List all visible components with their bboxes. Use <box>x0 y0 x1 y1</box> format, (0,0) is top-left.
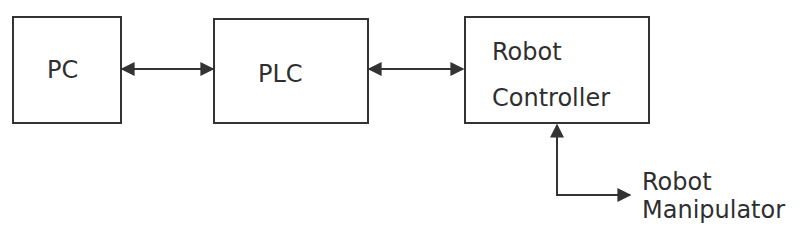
robot-controller-box: Robot Controller <box>464 16 650 124</box>
robot-controller-label-line2: Controller <box>492 84 610 112</box>
plc-box: PLC <box>213 18 369 124</box>
robot-manipulator-label-line2: Manipulator <box>642 196 785 224</box>
robot-controller-label-line1: Robot <box>492 38 562 66</box>
robot-manipulator-label-line1: Robot <box>642 168 712 196</box>
pc-box: PC <box>12 16 122 124</box>
arrow-controller-manipulator <box>557 125 630 195</box>
pc-label: PC <box>47 56 78 84</box>
plc-label: PLC <box>258 60 303 88</box>
